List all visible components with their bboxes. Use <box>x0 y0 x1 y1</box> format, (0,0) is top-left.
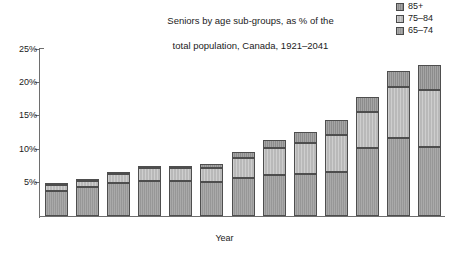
y-axis-tick-label: 20% <box>3 78 37 87</box>
bar-segment-7584 <box>418 90 441 147</box>
bar-segment-6574 <box>76 187 99 216</box>
bar-segment-85+ <box>232 152 255 158</box>
bar-segment-7584 <box>107 174 130 183</box>
legend-swatch-icon <box>396 3 404 11</box>
bar-segment-7584 <box>325 135 348 172</box>
chart-legend: 85+75–8465–74 <box>396 2 433 35</box>
bar-segment-85+ <box>138 166 161 169</box>
bar-segment-6574 <box>138 181 161 216</box>
bar-2031[interactable] <box>387 71 410 216</box>
bar-1991[interactable] <box>263 140 286 216</box>
x-axis-line <box>39 216 445 217</box>
bar-segment-85+ <box>294 132 317 143</box>
bar-segment-7584 <box>356 112 379 148</box>
bar-segment-6574 <box>107 183 130 216</box>
bar-2011[interactable] <box>325 120 348 216</box>
bar-segment-85+ <box>200 164 223 168</box>
bar-segment-6574 <box>263 175 286 216</box>
bar-segment-6574 <box>387 138 410 216</box>
legend-label: 65–74 <box>408 26 433 35</box>
bar-segment-6574 <box>294 174 317 216</box>
plot-area: 5%10%15%20%25%19211931194119511961197119… <box>40 50 444 216</box>
y-axis-tick-label: 5% <box>3 178 37 187</box>
bar-segment-85+ <box>169 166 192 169</box>
chart-title: Seniors by age sub-groups, as % of the t… <box>143 3 358 52</box>
y-axis-tick-label: 15% <box>3 111 37 120</box>
legend-label: 75–84 <box>408 14 433 23</box>
legend-item-7584[interactable]: 75–84 <box>396 14 433 23</box>
y-axis-tick-label: 10% <box>3 145 37 154</box>
legend-swatch-icon <box>396 15 404 23</box>
bar-1971[interactable] <box>200 164 223 216</box>
legend-item-85+[interactable]: 85+ <box>396 2 433 11</box>
bar-1961[interactable] <box>169 166 192 216</box>
bar-segment-7584 <box>263 148 286 175</box>
chart-container: Seniors by age sub-groups, as % of the t… <box>0 0 449 257</box>
bar-segment-7584 <box>45 185 68 191</box>
bar-segment-85+ <box>356 97 379 112</box>
bar-segment-6574 <box>418 147 441 216</box>
bar-2001[interactable] <box>294 132 317 216</box>
bar-segment-85+ <box>263 140 286 148</box>
bar-1931[interactable] <box>76 179 99 216</box>
bar-2021[interactable] <box>356 97 379 216</box>
bar-segment-6574 <box>232 178 255 217</box>
bar-segment-7584 <box>387 87 410 137</box>
legend-item-6574[interactable]: 65–74 <box>396 26 433 35</box>
bar-1921[interactable] <box>45 184 68 216</box>
bar-segment-6574 <box>200 182 223 216</box>
bar-segment-6574 <box>325 172 348 216</box>
bar-segment-6574 <box>169 181 192 216</box>
bar-segment-85+ <box>76 179 99 181</box>
legend-swatch-icon <box>396 27 404 35</box>
bar-1951[interactable] <box>138 166 161 216</box>
bar-segment-85+ <box>387 71 410 87</box>
bar-segment-6574 <box>356 148 379 216</box>
bar-segment-85+ <box>325 120 348 135</box>
bar-segment-85+ <box>45 183 68 185</box>
legend-label: 85+ <box>408 2 423 11</box>
x-axis-title: Year <box>0 233 449 243</box>
bar-segment-7584 <box>294 143 317 174</box>
bar-segment-6574 <box>45 191 68 216</box>
bar-segment-7584 <box>200 168 223 183</box>
bar-segment-7584 <box>138 168 161 181</box>
bar-1941[interactable] <box>107 172 130 216</box>
bar-1981[interactable] <box>232 152 255 216</box>
chart-title-line-2: total population, Canada, 1921–2041 <box>173 40 329 51</box>
bar-segment-7584 <box>169 168 192 181</box>
y-axis-tick-label: 25% <box>3 45 37 54</box>
bar-segment-85+ <box>107 172 130 174</box>
bar-segment-7584 <box>76 181 99 188</box>
bar-segment-85+ <box>418 65 441 90</box>
bar-2041[interactable] <box>418 65 441 216</box>
bar-segment-7584 <box>232 158 255 178</box>
chart-title-line-1: Seniors by age sub-groups, as % of the <box>167 15 333 26</box>
